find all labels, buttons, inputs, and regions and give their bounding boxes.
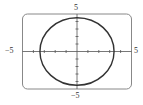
x-max-label: 5 (134, 47, 138, 55)
graph-canvas (0, 0, 143, 105)
y-max-label: 5 (74, 4, 78, 12)
y-min-label: −5 (71, 92, 80, 100)
x-min-label: −5 (5, 47, 14, 55)
